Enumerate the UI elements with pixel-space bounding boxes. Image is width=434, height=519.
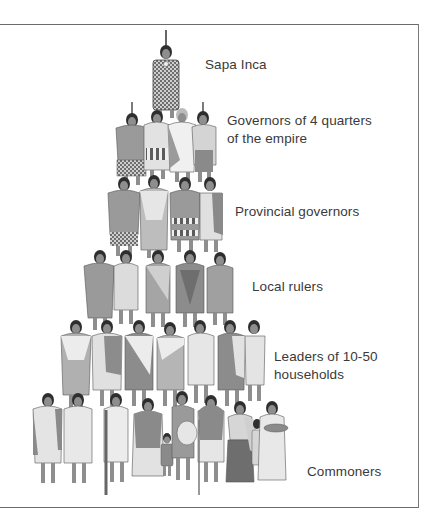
figure-group-commoners [33,391,288,495]
level-label-leaders-10-50: Leaders of 10-50 households [274,348,378,384]
person-figure [153,30,179,118]
level-label-commoners: Commoners [307,463,381,481]
person-figure [140,175,168,258]
person-figure [146,250,170,327]
person-figure [188,320,214,403]
person-figure [33,393,62,483]
person-figure [245,320,265,401]
person-figure [198,395,224,495]
figure-group-local-rulers [84,250,233,330]
person-figure [192,102,216,182]
label-line: Provincial governors [235,203,359,221]
level-label-sapa-inca: Sapa Inca [205,56,267,74]
level-label-provincial-governors: Provincial governors [235,203,359,221]
person-figure [84,250,114,330]
label-line: Commoners [307,463,381,481]
person-figure [144,110,170,179]
level-label-local-rulers: Local rulers [252,278,323,296]
person-figure [64,393,92,483]
level-label-governors-4-quarters: Governors of 4 quarters of the empire [227,112,372,148]
person-figure [114,250,138,324]
figure-group-provincial-governors [108,175,223,258]
person-figure [116,102,148,185]
pyramid-illustration [0,0,434,519]
label-line: Governors of 4 quarters [227,112,372,130]
figure-group-sapa-inca [153,30,179,118]
label-line: of the empire [227,130,372,148]
label-line: Leaders of 10-50 [274,348,378,366]
person-figure [104,393,128,495]
figure-group-leaders-10-50 [61,320,265,409]
person-figure [108,177,140,256]
figure-group-governors-4-quarters [116,102,216,185]
person-figure [258,401,288,480]
person-figure [168,108,196,182]
label-line: households [274,366,378,384]
person-figure [207,252,233,325]
person-figure [218,320,245,406]
person-figure [200,177,223,252]
person-figure [226,401,256,482]
person-figure [125,320,153,406]
person-figure [92,320,122,406]
person-figure [170,177,200,252]
person-figure [176,250,204,327]
person-figure [132,398,164,476]
label-line: Local rulers [252,278,323,296]
label-line: Sapa Inca [205,56,267,74]
